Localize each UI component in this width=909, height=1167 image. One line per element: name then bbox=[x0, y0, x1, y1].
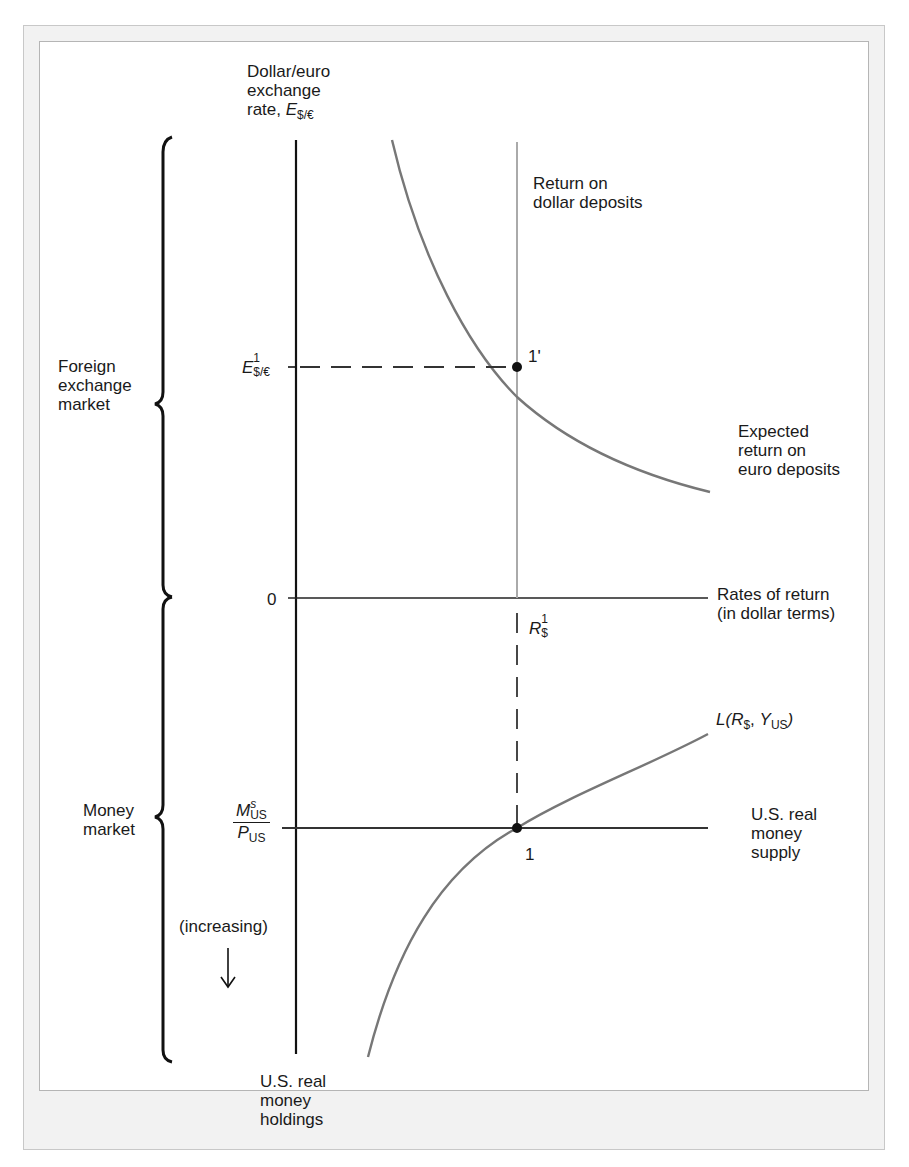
money-demand-y: Y bbox=[760, 710, 771, 729]
dollar-return-label-line-1: Return on bbox=[533, 174, 643, 193]
money-equilibrium-point bbox=[512, 823, 522, 833]
money-market-label-line-1: Money bbox=[83, 801, 135, 820]
y-axis-title-line-3: rate, E$/€ bbox=[247, 100, 330, 125]
money-supply-m: M bbox=[236, 801, 250, 820]
money-supply-label-line-3: supply bbox=[751, 843, 817, 862]
fx-market-label-line-1: Foreign bbox=[58, 357, 132, 376]
lower-axis-label-line-1: U.S. real bbox=[260, 1072, 326, 1091]
money-supply-num-sub: US bbox=[250, 810, 267, 821]
euro-return-label-line-1: Expected bbox=[738, 422, 840, 441]
dollar-return-label-line-2: dollar deposits bbox=[533, 193, 643, 212]
dollar-return-label: Return on dollar deposits bbox=[533, 174, 643, 212]
money-equilibrium-label: 1 bbox=[525, 845, 534, 864]
money-market-brace bbox=[155, 597, 172, 1062]
interest-rate-tick-label: R1$ bbox=[529, 619, 548, 639]
diagram-canvas bbox=[0, 0, 909, 1167]
fx-equilibrium-label: 1' bbox=[528, 347, 541, 366]
fx-equilibrium-point bbox=[512, 362, 522, 372]
money-demand-curve bbox=[368, 734, 708, 1057]
euro-return-label: Expected return on euro deposits bbox=[738, 422, 840, 479]
money-demand-y-sub: US bbox=[771, 718, 788, 732]
y-axis-symbol-sub: $/€ bbox=[297, 108, 314, 122]
money-supply-denominator: PUS bbox=[233, 823, 270, 848]
exchange-rate-symbol: E bbox=[242, 358, 253, 377]
x-axis-label: Rates of return (in dollar terms) bbox=[717, 585, 835, 623]
lower-axis-label: U.S. real money holdings bbox=[260, 1072, 326, 1129]
y-axis-title-line-2: exchange bbox=[247, 81, 330, 100]
money-market-label-line-2: market bbox=[83, 820, 135, 839]
x-axis-label-line-1: Rates of return bbox=[717, 585, 835, 604]
euro-return-label-line-2: return on bbox=[738, 441, 840, 460]
money-supply-den-sub: US bbox=[249, 831, 266, 845]
money-supply-label-line-1: U.S. real bbox=[751, 805, 817, 824]
y-axis-title-line-1: Dollar/euro bbox=[247, 62, 330, 81]
money-market-label: Money market bbox=[83, 801, 135, 839]
exchange-rate-tick-label: E1$/€ bbox=[242, 358, 270, 378]
interest-rate-symbol: R bbox=[529, 619, 541, 638]
money-supply-tick-label: MsUS PUS bbox=[233, 801, 270, 848]
fx-market-label-line-2: exchange bbox=[58, 376, 132, 395]
fx-market-brace bbox=[155, 137, 172, 597]
money-demand-label: L(R$, YUS) bbox=[716, 710, 793, 735]
lower-axis-label-line-2: money bbox=[260, 1091, 326, 1110]
y-axis-symbol: E bbox=[286, 100, 297, 119]
money-demand-sep: , bbox=[750, 710, 759, 729]
exchange-rate-sup: 1 bbox=[253, 352, 270, 364]
increasing-label: (increasing) bbox=[179, 917, 268, 936]
fx-market-label: Foreign exchange market bbox=[58, 357, 132, 414]
x-axis-label-line-2: (in dollar terms) bbox=[717, 604, 835, 623]
fx-market-label-line-3: market bbox=[58, 395, 132, 414]
money-supply-label: U.S. real money supply bbox=[751, 805, 817, 862]
lower-axis-label-line-3: holdings bbox=[260, 1110, 326, 1129]
euro-return-label-line-3: euro deposits bbox=[738, 460, 840, 479]
money-demand-r: R bbox=[731, 710, 743, 729]
money-demand-prefix: L( bbox=[716, 710, 731, 729]
exchange-rate-sub: $/€ bbox=[253, 366, 270, 378]
money-demand-suffix: ) bbox=[788, 710, 794, 729]
money-supply-label-line-2: money bbox=[751, 824, 817, 843]
interest-rate-sup: 1 bbox=[541, 613, 548, 625]
y-axis-title: Dollar/euro exchange rate, E$/€ bbox=[247, 62, 330, 125]
y-axis-title-text: rate, bbox=[247, 100, 286, 119]
money-supply-p: P bbox=[237, 823, 248, 842]
origin-label: 0 bbox=[267, 590, 276, 609]
interest-rate-sub: $ bbox=[541, 627, 548, 639]
money-supply-numerator: MsUS bbox=[233, 801, 270, 823]
